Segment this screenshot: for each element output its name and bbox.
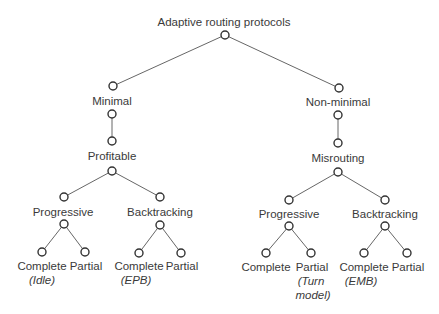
tree-nodes	[38, 31, 411, 257]
label-min-progressive: Progressive	[33, 206, 94, 219]
label-misrouting: Misrouting	[311, 152, 364, 165]
leaf-non-back-partial	[403, 249, 411, 257]
leaf-non-back-complete	[360, 249, 368, 257]
label-non-progressive: Progressive	[259, 208, 320, 221]
node-misrouting-top	[334, 139, 342, 147]
label-non-back-complete: Complete	[339, 261, 388, 274]
label-non-prog-partial: Partial	[296, 261, 329, 274]
label-min-prog-partial: Partial	[70, 260, 103, 273]
label-min-back-complete: Complete	[114, 260, 163, 273]
label-min-prog-complete: Complete	[17, 260, 66, 273]
leaf-min-back-complete	[135, 249, 143, 257]
node-profitable	[108, 167, 116, 175]
note-epb: (EPB)	[121, 274, 152, 287]
label-root: Adaptive routing protocols	[158, 16, 291, 29]
node-misrouting	[334, 168, 342, 176]
leaf-min-back-partial	[177, 249, 185, 257]
node-profitable-top	[108, 137, 116, 145]
label-non-prog-complete: Complete	[241, 261, 290, 274]
node-minimal	[109, 82, 117, 90]
leaf-non-prog-partial	[307, 249, 315, 257]
label-nonminimal: Non-minimal	[306, 96, 371, 109]
note-emb: (EMB)	[345, 275, 378, 288]
node-non-progressive	[285, 222, 293, 230]
label-min-back-partial: Partial	[166, 260, 199, 273]
label-min-backtracking: Backtracking	[127, 206, 193, 219]
label-minimal: Minimal	[92, 95, 132, 108]
label-non-backtracking: Backtracking	[352, 208, 418, 221]
label-profitable: Profitable	[88, 150, 137, 163]
node-non-backtracking-top	[381, 196, 389, 204]
node-nonminimal	[335, 84, 343, 92]
label-non-back-partial: Partial	[392, 261, 425, 274]
leaf-min-prog-partial	[81, 248, 89, 256]
node-min-progressive-top	[60, 193, 68, 201]
node-nonminimal-link	[334, 111, 342, 119]
node-min-progressive	[60, 220, 68, 228]
node-non-progressive-top	[285, 196, 293, 204]
node-minimal-link	[108, 110, 116, 118]
note-idle: (Idle)	[29, 274, 55, 287]
leaf-non-prog-complete	[262, 249, 270, 257]
node-root	[221, 31, 229, 39]
note-turn-line2: model)	[295, 289, 330, 302]
note-turn-line1: (Turn	[298, 275, 325, 288]
node-min-backtracking-top	[156, 193, 164, 201]
routing-taxonomy-diagram: Adaptive routing protocols Minimal Non-m…	[0, 0, 439, 314]
node-non-backtracking	[381, 222, 389, 230]
node-min-backtracking	[156, 221, 164, 229]
leaf-min-prog-complete	[38, 248, 46, 256]
